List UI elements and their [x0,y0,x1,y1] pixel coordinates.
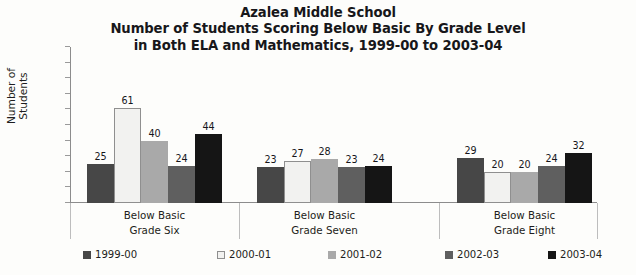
y-axis-tick [65,140,70,141]
legend-item[interactable]: 2000-01 [217,249,271,260]
y-axis-tick [65,171,70,172]
x-axis-category-label: Below BasicGrade Seven [227,208,422,237]
bar [565,153,592,203]
bar-chart: Azalea Middle School Number of Students … [0,0,636,275]
legend-item[interactable]: 1999-00 [83,249,137,260]
y-axis-line [70,47,71,225]
y-axis-tick [65,108,70,109]
y-axis-tick [65,124,70,125]
x-axis-category-label: Below BasicGrade Eight [427,208,622,237]
bar [484,172,511,203]
legend-label: 2001-02 [340,249,382,260]
legend-label: 1999-00 [95,249,137,260]
y-axis-tick [65,46,70,47]
bar [257,167,284,203]
bar-value-label: 40 [135,128,175,139]
chart-legend: 1999-002000-012001-022002-032003-04 [70,249,597,267]
legend-item[interactable]: 2002-03 [445,249,499,260]
legend-item[interactable]: 2003-04 [548,249,602,260]
bar-group: 2920202432 [457,47,592,203]
y-axis-title: Number of Students [5,46,29,146]
bar [284,161,311,203]
legend-label: 2003-04 [560,249,602,260]
bar [141,141,168,203]
legend-item[interactable]: 2001-02 [328,249,382,260]
legend-swatch [217,251,225,259]
legend-label: 2002-03 [457,249,499,260]
bar [195,134,222,203]
category-label-line: Grade Six [57,223,252,238]
chart-title-line-2: Number of Students Scoring Below Basic B… [0,21,636,37]
bar [168,166,195,203]
y-axis-tick [65,77,70,78]
category-label-line: Below Basic [427,208,622,223]
bar [511,172,538,203]
category-label-line: Grade Seven [227,223,422,238]
category-label-line: Below Basic [227,208,422,223]
bar [87,164,114,203]
legend-label: 2000-01 [229,249,271,260]
legend-swatch [83,251,91,259]
bar [338,167,365,203]
plot-area: 0102030405060708090100 25614024442327282… [70,47,597,203]
y-axis-tick [65,155,70,156]
legend-swatch [328,251,336,259]
group-separator [239,203,240,239]
legend-swatch [445,251,453,259]
category-label-line: Grade Eight [427,223,622,238]
chart-title-line-1: Azalea Middle School [0,5,636,21]
bar [114,108,141,203]
y-axis-tick [65,93,70,94]
bar-value-label: 61 [108,95,148,106]
y-axis-tick [65,186,70,187]
bar-group: 2327282324 [257,47,392,203]
group-separator [597,203,598,239]
bar [311,159,338,203]
y-axis-tick [65,62,70,63]
category-label-line: Below Basic [57,208,252,223]
bar-value-label: 44 [189,121,229,132]
bar-value-label: 29 [451,145,491,156]
legend-swatch [548,251,556,259]
bar-group: 2561402444 [87,47,222,203]
bar [538,166,565,203]
bar [365,166,392,203]
bar-value-label: 32 [559,140,599,151]
x-axis-category-label: Below BasicGrade Six [57,208,252,237]
group-separator [439,203,440,239]
bar-value-label: 24 [359,153,399,164]
